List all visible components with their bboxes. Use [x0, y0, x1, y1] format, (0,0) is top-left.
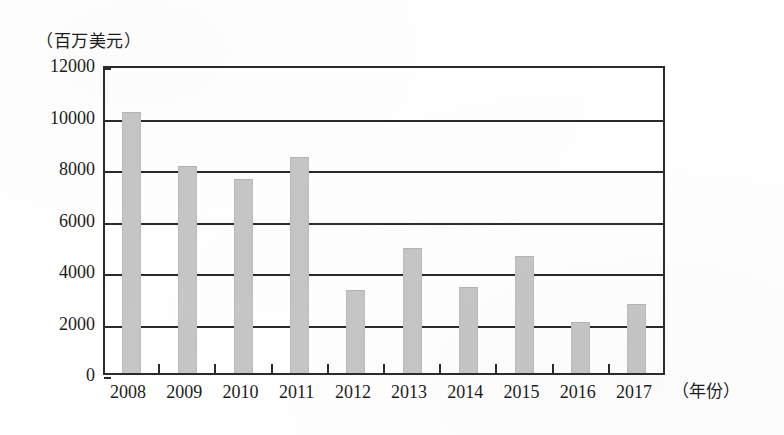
- x-tick-mark: [158, 364, 160, 373]
- x-tick-label: 2016: [548, 381, 608, 403]
- bar: [627, 304, 646, 373]
- x-tick-mark: [439, 364, 441, 373]
- bar: [515, 256, 534, 373]
- y-tick-label: 6000: [9, 212, 95, 230]
- bar: [346, 290, 365, 373]
- plot-area: [103, 66, 665, 375]
- bar: [122, 112, 141, 373]
- x-axis-unit-label: （年份）: [672, 381, 740, 403]
- bar: [403, 248, 422, 373]
- y-axis-unit-label: （百万美元）: [36, 27, 141, 52]
- x-tick-mark: [552, 364, 554, 373]
- x-tick-mark: [495, 364, 497, 373]
- x-tick-label: 2015: [492, 381, 552, 403]
- y-tick-label: 2000: [9, 315, 95, 333]
- bar: [459, 287, 478, 373]
- x-tick-label: 2014: [435, 381, 495, 403]
- bar-chart-figure: （百万美元） 020004000600080001000012000 20082…: [0, 0, 784, 435]
- x-tick-label: 2010: [211, 381, 271, 403]
- bars-layer: [105, 68, 663, 373]
- x-tick-mark: [383, 364, 385, 373]
- x-axis-tick-labels: 2008200920102011201220132014201520162017: [103, 381, 665, 411]
- y-tick-mark: [104, 377, 111, 379]
- y-tick-label: 10000: [9, 109, 95, 127]
- bar: [234, 179, 253, 373]
- x-tick-label: 2008: [98, 381, 158, 403]
- y-tick-label: 4000: [9, 263, 95, 281]
- x-tick-mark: [214, 364, 216, 373]
- bar: [571, 322, 590, 373]
- x-tick-mark: [608, 364, 610, 373]
- x-tick-label: 2012: [323, 381, 383, 403]
- x-tick-label: 2009: [154, 381, 214, 403]
- y-tick-label: 12000: [9, 57, 95, 75]
- y-axis-tick-labels: 020004000600080001000012000: [0, 66, 95, 375]
- y-tick-label: 8000: [9, 160, 95, 178]
- x-tick-label: 2013: [379, 381, 439, 403]
- bar: [178, 166, 197, 373]
- x-tick-label: 2017: [604, 381, 664, 403]
- x-tick-mark: [327, 364, 329, 373]
- y-tick-label: 0: [9, 366, 95, 384]
- bar: [290, 157, 309, 373]
- x-tick-mark: [271, 364, 273, 373]
- x-tick-label: 2011: [267, 381, 327, 403]
